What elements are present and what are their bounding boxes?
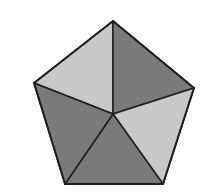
pentagon-diagram bbox=[0, 0, 205, 196]
